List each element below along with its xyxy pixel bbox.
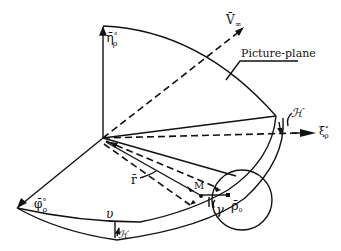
picture-plane-label: Picture-plane [241,47,316,60]
gamma-arc [213,200,215,208]
eta-label: η̄°ρ [106,30,118,48]
point-rho0 [226,193,230,197]
v-inf-axis [103,31,240,138]
lower-arc [17,208,117,240]
r-solid [106,142,200,195]
picture-plane-arc [140,116,276,222]
upsilon-label: υ [106,207,113,221]
xi-arrowhead-icon [300,129,316,137]
gamma-label: γ [216,202,224,217]
top-arc [103,26,276,116]
r-dashed-lower [104,144,190,205]
picture-plane-leader [226,61,298,80]
phi-arrowhead-icon [17,198,27,208]
m-label: M [194,180,204,191]
phi-axis [17,138,103,208]
xi-label: ξ°ρ [319,125,329,140]
kappa-top-label: ℋ [291,106,305,120]
kappa-angle-top [279,122,281,134]
point-m [199,194,203,198]
projection-diagram: η̄°ρ V̄∞ Picture-plane ℋ ξ°ρ φ̄°ρ r̄ M γ… [0,0,341,251]
v-inf-label: V̄∞ [225,12,241,29]
r-label: r̄ [131,173,137,187]
